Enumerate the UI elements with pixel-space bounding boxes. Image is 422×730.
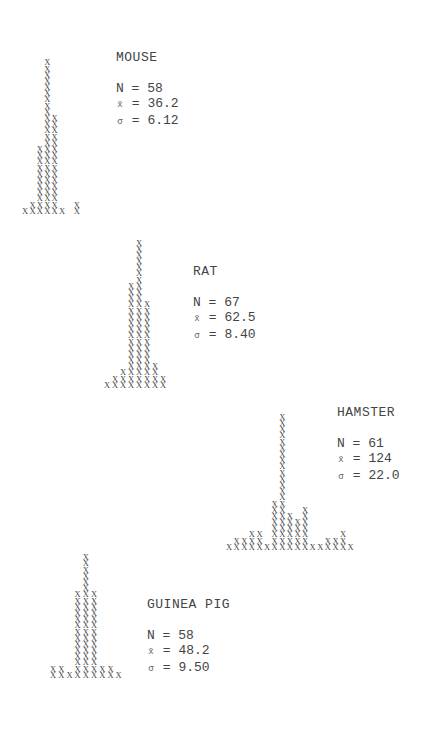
- x-mark: X: [249, 544, 255, 550]
- x-mark: X: [160, 382, 166, 388]
- x-mark: X: [107, 672, 113, 678]
- mean-stat: x̄ = 48.2: [147, 643, 230, 660]
- histogram-column: XXXXXXXXXXXXXXXXXXXXXX: [279, 414, 285, 550]
- x-mark: X: [136, 382, 142, 388]
- x-mark: X: [272, 544, 278, 550]
- histogram-column: XX: [50, 666, 56, 678]
- histogram-column: XX: [325, 538, 331, 550]
- histogram-column: XX: [99, 666, 105, 678]
- x-mark: X: [104, 382, 110, 388]
- x-mark: X: [279, 544, 285, 550]
- histogram-column: XX: [234, 538, 240, 550]
- x-mark: X: [75, 672, 81, 678]
- histogram-column: XX: [29, 202, 35, 214]
- x-mark: X: [44, 208, 50, 214]
- x-mark: X: [302, 544, 308, 550]
- histogram-column: XX: [332, 538, 338, 550]
- histogram-column: XXX: [120, 369, 126, 388]
- stats-block: GUINEA PIGN = 58x̄ = 48.2σ = 9.50: [147, 597, 230, 677]
- mean-stat: x̄ = 124: [337, 451, 400, 468]
- histogram-column: XXXXXXXXXXXXXX: [144, 301, 150, 388]
- sigma-stat: σ = 22.0: [337, 468, 400, 485]
- histogram-column: XXXXXXXXXXXXXXXXX: [128, 283, 134, 388]
- x-mark: X: [340, 544, 346, 550]
- n-stat: N = 58: [116, 81, 179, 96]
- x-mark: X: [112, 382, 118, 388]
- x-mark: X: [234, 544, 240, 550]
- x-mark: X: [294, 544, 300, 550]
- stats-block: MOUSEN = 58x̄ = 36.2σ = 6.12: [116, 50, 179, 130]
- histogram-column: XXX: [256, 531, 262, 550]
- n-stat: N = 58: [147, 628, 230, 643]
- histogram-column: XXXXX: [294, 519, 300, 550]
- histogram-column: X: [348, 544, 354, 550]
- histogram-column: XX: [112, 376, 118, 388]
- x-mark: X: [241, 544, 247, 550]
- x-mark: X: [332, 544, 338, 550]
- histogram-column: XXXXXXXXXXX: [37, 146, 43, 214]
- histogram-column: XXX: [249, 531, 255, 550]
- histogram-column: XX: [241, 538, 247, 550]
- x-mark: X: [120, 382, 126, 388]
- x-mark: X: [128, 382, 134, 388]
- histogram-column: X: [59, 208, 65, 214]
- histogram-column: X: [22, 208, 28, 214]
- x-mark: X: [325, 544, 331, 550]
- x-mark: X: [152, 382, 158, 388]
- x-mark: X: [144, 382, 150, 388]
- histogram-column: XXXXXXXXXXXXXXXXXXXX: [83, 554, 89, 678]
- species-title: HAMSTER: [337, 405, 400, 420]
- x-mark: X: [58, 672, 64, 678]
- histogram-column: XXXX: [152, 363, 158, 388]
- histogram-column: XX: [107, 666, 113, 678]
- x-mark: X: [99, 672, 105, 678]
- species-title: RAT: [193, 264, 256, 279]
- x-mark: X: [37, 208, 43, 214]
- histogram-column: X: [66, 672, 72, 678]
- x-mark: X: [22, 208, 28, 214]
- histogram-column: XXX: [340, 531, 346, 550]
- mean-stat: x̄ = 62.5: [193, 310, 256, 327]
- histogram-column: XXXXXXXXXXXXXX: [75, 591, 81, 678]
- histogram-column: XX: [74, 202, 80, 214]
- sigma-stat: σ = 6.12: [116, 113, 179, 130]
- histogram-column: XXXXXXXXXXXXXXXXXXXXXXXXX: [44, 59, 50, 214]
- x-mark: X: [226, 544, 232, 550]
- histogram-column: XXXXXXX: [302, 507, 308, 550]
- n-stat: N = 67: [193, 295, 256, 310]
- histogram-column: X: [116, 672, 122, 678]
- sigma-stat: σ = 8.40: [193, 327, 256, 344]
- histogram-column: XXXXXX: [287, 513, 293, 550]
- species-title: GUINEA PIG: [147, 597, 230, 612]
- species-title: MOUSE: [116, 50, 179, 65]
- histogram-column: XXXXXXXXXXXXXXXXXXXXXXXX: [136, 240, 142, 389]
- histogram-column: X: [310, 544, 316, 550]
- x-mark: X: [66, 672, 72, 678]
- histogram-column: X: [104, 382, 110, 388]
- x-mark: X: [29, 208, 35, 214]
- histogram-column: XXXXXXXX: [272, 501, 278, 551]
- x-mark: X: [91, 672, 97, 678]
- x-mark: X: [59, 208, 65, 214]
- histogram-column: XXXXXXXXXXXXXXXX: [52, 115, 58, 214]
- mean-stat: x̄ = 36.2: [116, 96, 179, 113]
- stats-block: RATN = 67x̄ = 62.5σ = 8.40: [193, 264, 256, 344]
- x-mark: X: [256, 544, 262, 550]
- n-stat: N = 61: [337, 436, 400, 451]
- x-mark: X: [52, 208, 58, 214]
- histogram-column: X: [317, 544, 323, 550]
- x-mark: X: [83, 672, 89, 678]
- histogram-column: X: [226, 544, 232, 550]
- stats-block: HAMSTERN = 61x̄ = 124σ = 22.0: [337, 405, 400, 485]
- x-mark: X: [317, 544, 323, 550]
- x-mark: X: [310, 544, 316, 550]
- x-mark: X: [348, 544, 354, 550]
- x-mark: X: [264, 544, 270, 550]
- histogram-column: XXXXXXXXXXXXXX: [91, 591, 97, 678]
- x-mark: X: [116, 672, 122, 678]
- x-mark: X: [287, 544, 293, 550]
- x-mark: X: [74, 208, 80, 214]
- histogram-column: XX: [160, 376, 166, 388]
- x-mark: X: [50, 672, 56, 678]
- histogram-column: XX: [58, 666, 64, 678]
